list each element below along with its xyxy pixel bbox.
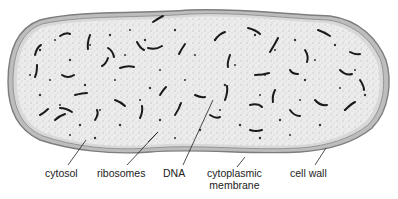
cytosol [17, 17, 380, 146]
label-ribosomes: ribosomes [97, 167, 145, 179]
leader-line-cytoplasmic-membrane [237, 157, 245, 167]
label-cytosol: cytosol [45, 167, 78, 179]
label-cytoplasmic-line1: cytoplasmic [207, 167, 262, 179]
label-cytoplasmic-membrane: cytoplasmic membrane [207, 167, 262, 191]
label-dna: DNA [163, 167, 185, 179]
label-cell-wall: cell wall [290, 167, 327, 179]
label-cytoplasmic-line2: membrane [207, 179, 262, 191]
